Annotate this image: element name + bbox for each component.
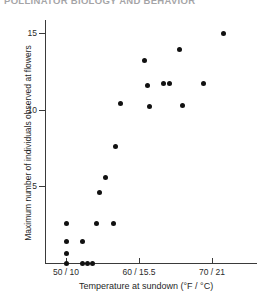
y-axis-tick (39, 33, 46, 34)
data-point (145, 83, 150, 88)
data-point (80, 239, 85, 244)
x-axis-tick-label: 70 / 21 (177, 267, 247, 277)
data-point (201, 81, 206, 86)
x-axis-tick-label: 60 / 15.5 (104, 267, 174, 277)
data-point (221, 31, 226, 36)
data-point (147, 104, 152, 109)
page-title: POLLINATOR BIOLOGY AND BEHAVIOR (4, 0, 257, 5)
scatter-plot-figure: POLLINATOR BIOLOGY AND BEHAVIOR 51015 50… (0, 0, 261, 297)
y-axis-title: Maximum number of individuals observed a… (23, 29, 33, 257)
x-axis-line (45, 263, 257, 264)
data-point (90, 261, 95, 266)
y-axis-line (45, 20, 46, 264)
y-axis-tick (39, 110, 46, 111)
data-point (64, 221, 69, 226)
data-point (64, 239, 69, 244)
data-point (113, 144, 118, 149)
x-axis-tick (212, 258, 213, 264)
data-point (97, 190, 102, 195)
data-point (142, 58, 147, 63)
y-axis-tick (39, 186, 46, 187)
x-axis-tick (139, 258, 140, 264)
data-point (111, 221, 116, 226)
data-point (161, 81, 166, 86)
data-point (94, 221, 99, 226)
data-point (118, 101, 123, 106)
data-point (64, 261, 69, 266)
data-point (167, 81, 172, 86)
data-point (64, 251, 69, 256)
data-point (180, 103, 185, 108)
data-point (103, 175, 108, 180)
x-axis-title: Temperature at sundown (°F / °C) (35, 281, 257, 291)
x-axis-tick-label: 50 / 10 (31, 267, 101, 277)
data-point (177, 47, 182, 52)
